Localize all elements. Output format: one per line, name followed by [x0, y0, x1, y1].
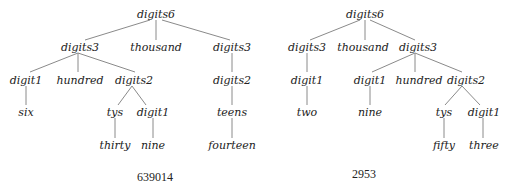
tree-1: digits6 digits3 thousand digits3 digit1 … [10, 8, 256, 184]
tree-2-left-digit1-node: digit1 [291, 74, 324, 87]
tree-1-root-node: digits6 [137, 8, 175, 21]
tree-1-thirty-node: thirty [100, 139, 132, 152]
tree-1-caption: 639014 [137, 170, 173, 184]
tree-1-hundred-node: hundred [56, 74, 103, 87]
parse-tree-figure: digits6 digits3 thousand digits3 digit1 … [0, 0, 510, 190]
tree-2-tys-node: tys [436, 106, 453, 119]
tree-2-root-node: digits6 [346, 8, 384, 21]
tree-2-fifty-node: fifty [432, 139, 456, 152]
tree-1-nine-node: nine [141, 139, 166, 152]
tree-1-digit1-node: digit1 [10, 74, 43, 87]
tree-1-right-digits2-node: digits2 [213, 74, 251, 87]
tree-1-tys-node: tys [107, 106, 124, 119]
tree-2-digits2-node: digits2 [447, 74, 485, 87]
tree-2-digit1-leaf-node: digit1 [468, 106, 501, 119]
tree-2-digits3-left-node: digits3 [288, 41, 326, 54]
tree-1-digits3-left-node: digits3 [61, 41, 99, 54]
diagram-canvas: digits6 digits3 thousand digits3 digit1 … [0, 0, 510, 190]
tree-1-digits2-node: digits2 [115, 74, 153, 87]
tree-1-teens-node: teens [217, 106, 248, 119]
tree-1-six-node: six [18, 106, 34, 119]
tree-1-thousand-node: thousand [130, 41, 182, 54]
tree-1-digits3-right-node: digits3 [213, 41, 251, 54]
tree-2-caption: 2953 [352, 167, 376, 181]
tree-2-digits3-right-node: digits3 [399, 41, 437, 54]
tree-2-two-node: two [297, 106, 318, 119]
tree-1-digit1-leaf-node: digit1 [137, 106, 170, 119]
tree-2-three-node: three [469, 139, 499, 152]
tree-1-fourteen-node: fourteen [207, 139, 256, 152]
tree-2-hundred-node: hundred [395, 74, 442, 87]
tree-2-digit1-node: digit1 [354, 74, 387, 87]
tree-2-nine-node: nine [358, 106, 383, 119]
tree-2: digits6 digits3 thousand digits3 digit1 … [288, 8, 500, 181]
tree-2-thousand-node: thousand [337, 41, 389, 54]
